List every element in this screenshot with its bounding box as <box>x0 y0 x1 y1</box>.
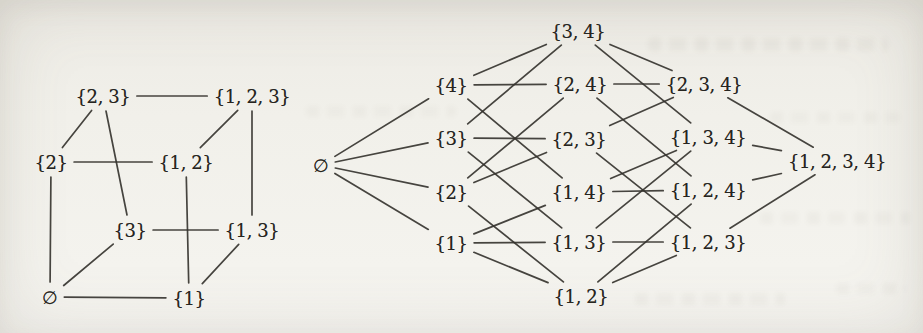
set-node-p23: {2, 3} <box>552 129 607 150</box>
set-node-c0: ∅ <box>42 287 58 308</box>
set-node-c12: {1, 2} <box>159 152 214 173</box>
set-node-p13: {1, 3} <box>552 232 607 253</box>
set-node-p12: {1, 2} <box>554 286 609 307</box>
set-node-p14: {1, 4} <box>552 182 607 203</box>
set-node-c13: {1, 3} <box>225 220 280 241</box>
set-node-s2: {2} <box>434 182 467 203</box>
set-node-t134: {1, 3, 4} <box>670 127 747 148</box>
scanned-textbook-figure: ∅{1}{2}{3}{1, 2}{1, 3}{2, 3}{1, 2, 3} ∅{… <box>0 0 923 333</box>
set-node-s3: {3} <box>434 128 467 149</box>
set-node-f: {1, 2, 3, 4} <box>788 151 886 172</box>
set-node-t123: {1, 2, 3} <box>670 232 747 253</box>
lattice-node-layer: ∅{4}{3}{2}{1}{3, 4}{2, 4}{2, 3}{1, 4}{1,… <box>300 0 923 333</box>
set-node-t124: {1, 2, 4} <box>670 180 747 201</box>
set-node-c23: {2, 3} <box>76 86 131 107</box>
set-node-t234: {2, 3, 4} <box>666 74 743 95</box>
set-node-s4: {4} <box>434 75 467 96</box>
set-node-c2: {2} <box>34 152 67 173</box>
powerset-123-cube-diagram: ∅{1}{2}{3}{1, 2}{1, 3}{2, 3}{1, 2, 3} <box>0 0 300 333</box>
set-node-p24: {2, 4} <box>553 74 608 95</box>
set-node-c1: {1} <box>172 288 205 309</box>
set-node-e: ∅ <box>313 155 329 176</box>
cube-node-layer: ∅{1}{2}{3}{1, 2}{1, 3}{2, 3}{1, 2, 3} <box>0 0 300 333</box>
set-node-p34: {3, 4} <box>551 21 606 42</box>
set-node-c123: {1, 2, 3} <box>214 86 291 107</box>
set-node-s1: {1} <box>434 233 467 254</box>
powerset-1234-lattice-diagram: ∅{4}{3}{2}{1}{3, 4}{2, 4}{2, 3}{1, 4}{1,… <box>300 0 923 333</box>
set-node-c3: {3} <box>113 220 146 241</box>
